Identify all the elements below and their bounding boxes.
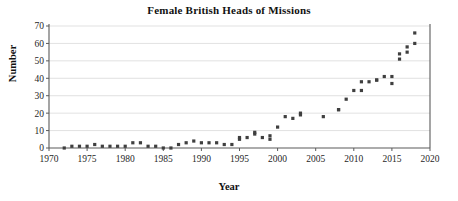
data-point [406, 45, 409, 48]
data-point [253, 131, 256, 134]
x-tick-label: 1980 [116, 154, 135, 164]
data-point [238, 138, 241, 141]
y-tick-label: 70 [35, 21, 45, 31]
data-point [398, 52, 401, 55]
data-point [261, 136, 264, 139]
data-point [139, 141, 142, 144]
data-point [360, 80, 363, 83]
data-point [276, 125, 279, 128]
data-point [146, 145, 149, 148]
data-point [345, 98, 348, 101]
data-point [390, 82, 393, 85]
y-tick-label: 50 [35, 56, 45, 66]
data-point [398, 58, 401, 61]
y-tick-label: 10 [35, 126, 45, 136]
data-point [284, 115, 287, 118]
data-point [223, 143, 226, 146]
y-tick-label: 40 [35, 74, 45, 84]
x-tick-label: 1990 [192, 154, 211, 164]
data-point [93, 143, 96, 146]
data-point [162, 146, 165, 149]
data-markers [63, 31, 417, 149]
data-point [215, 141, 218, 144]
y-tick-label: 0 [39, 143, 44, 153]
y-tick-label: 30 [35, 91, 45, 101]
data-point [78, 145, 81, 148]
data-point [154, 145, 157, 148]
y-tick-label: 60 [35, 39, 45, 49]
data-point [169, 146, 172, 149]
data-point [383, 75, 386, 78]
x-tick-label: 1975 [78, 154, 97, 164]
data-point [291, 117, 294, 120]
x-tick-label: 1985 [154, 154, 173, 164]
data-point [116, 145, 119, 148]
data-point [86, 145, 89, 148]
data-point [322, 115, 325, 118]
data-point [268, 134, 271, 137]
data-point [375, 78, 378, 81]
data-point [131, 141, 134, 144]
data-point [337, 108, 340, 111]
data-point [101, 145, 104, 148]
x-tick-label: 2015 [382, 154, 401, 164]
data-point [268, 138, 271, 141]
x-tick-label: 2020 [421, 154, 440, 164]
data-point [230, 143, 233, 146]
x-tick-label: 1970 [40, 154, 59, 164]
data-point [177, 143, 180, 146]
data-point [390, 75, 393, 78]
y-tick-label: 20 [35, 109, 45, 119]
data-point [360, 89, 363, 92]
data-point [108, 145, 111, 148]
data-point [413, 31, 416, 34]
data-point [246, 136, 249, 139]
data-point [185, 141, 188, 144]
data-point [299, 113, 302, 116]
data-point [192, 139, 195, 142]
data-point [63, 146, 66, 149]
data-point [413, 42, 416, 45]
data-point [124, 145, 127, 148]
x-tick-label: 1995 [230, 154, 249, 164]
data-point [70, 145, 73, 148]
data-point [200, 141, 203, 144]
x-tick-labels: 1970197519801985199019952000200520102015… [40, 154, 440, 164]
chart-figure: Female British Heads of Missions Number … [0, 0, 458, 201]
gridlines-group [49, 26, 430, 131]
x-tick-label: 2005 [306, 154, 325, 164]
data-point [207, 141, 210, 144]
x-tick-label: 2010 [344, 154, 363, 164]
data-point [367, 80, 370, 83]
data-point [352, 89, 355, 92]
plot-area: 010203040506070 197019751980198519901995… [0, 0, 458, 201]
x-tick-label: 2000 [268, 154, 287, 164]
y-tick-labels: 010203040506070 [35, 21, 45, 153]
data-point [406, 51, 409, 54]
